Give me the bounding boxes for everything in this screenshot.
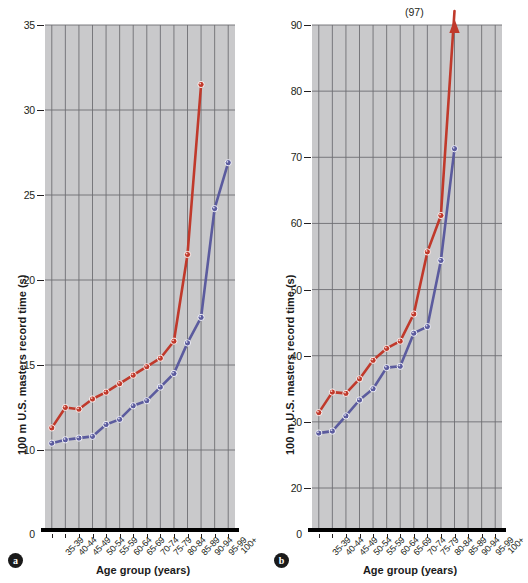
data-point-marker: [130, 372, 136, 378]
data-point-highlight: [317, 411, 319, 413]
x-tick-mark: [319, 534, 320, 538]
data-point-highlight: [77, 436, 79, 438]
data-point-marker: [397, 338, 403, 344]
panel-b-x-axis-title: Age group (years): [325, 564, 495, 576]
y-tick-label: 30: [280, 417, 302, 428]
data-point-highlight: [453, 147, 455, 149]
data-line-women: [52, 85, 201, 428]
data-point-highlight: [371, 359, 373, 361]
data-point-highlight: [412, 312, 414, 314]
x-tick-mark: [414, 534, 415, 538]
panel-a-plot-area: [45, 25, 235, 530]
data-point-marker: [370, 357, 376, 363]
data-point-highlight: [331, 429, 333, 431]
panel-b-axis-break-icon: [301, 512, 310, 526]
x-tick-mark: [65, 534, 66, 538]
data-point-marker: [144, 398, 150, 404]
data-point-highlight: [331, 390, 333, 392]
data-point-marker: [171, 338, 177, 344]
panel-a-letter: a: [8, 553, 23, 568]
x-tick-mark: [427, 534, 428, 538]
x-tick-mark: [160, 534, 161, 538]
figure: 100 m U.S. masters record time (s) 10152…: [0, 0, 528, 583]
y-tick-mark: [304, 290, 311, 291]
data-point-highlight: [131, 373, 133, 375]
x-tick-mark: [174, 534, 175, 538]
panel-b-y-axis-title: 100 m U.S. masters record time (s): [284, 275, 296, 455]
data-point-highlight: [159, 356, 161, 358]
data-point-marker: [225, 160, 231, 166]
data-point-highlight: [186, 253, 188, 255]
data-point-highlight: [64, 438, 66, 440]
data-point-highlight: [317, 431, 319, 433]
data-point-marker: [171, 370, 177, 376]
data-point-marker: [117, 381, 123, 387]
data-point-marker: [370, 386, 376, 392]
data-point-marker: [89, 433, 95, 439]
data-point-highlight: [64, 406, 66, 408]
data-point-marker: [316, 409, 322, 415]
data-point-marker: [184, 340, 190, 346]
y-tick-label: 60: [280, 218, 302, 229]
data-point-marker: [424, 249, 430, 255]
panel-b-letter: b: [274, 553, 289, 568]
y-tick-mark: [37, 110, 44, 111]
data-point-highlight: [131, 404, 133, 406]
data-point-highlight: [145, 365, 147, 367]
data-point-marker: [329, 428, 335, 434]
plotB-canvas: [312, 25, 502, 530]
x-tick-mark: [387, 534, 388, 538]
data-point-highlight: [199, 83, 201, 85]
y-tick-mark: [37, 280, 44, 281]
data-point-highlight: [426, 325, 428, 327]
y-tick-label: 35: [13, 20, 35, 31]
x-tick-mark: [52, 534, 53, 538]
data-point-marker: [356, 376, 362, 382]
data-point-highlight: [439, 214, 441, 216]
data-point-marker: [343, 413, 349, 419]
x-tick-mark: [482, 534, 483, 538]
off-chart-arrow-icon: [449, 19, 459, 33]
panel-a-x-axis-title: Age group (years): [58, 564, 228, 576]
x-tick-mark: [79, 534, 80, 538]
panel-b-zero-baseline: [308, 528, 506, 532]
data-point-highlight: [91, 435, 93, 437]
data-point-marker: [198, 81, 204, 87]
data-point-marker: [49, 425, 55, 431]
y-tick-mark: [304, 223, 311, 224]
data-point-highlight: [172, 372, 174, 374]
data-point-marker: [411, 330, 417, 336]
data-point-highlight: [118, 382, 120, 384]
data-point-marker: [384, 345, 390, 351]
x-tick-mark: [346, 534, 347, 538]
data-point-marker: [49, 440, 55, 446]
data-point-highlight: [358, 377, 360, 379]
y-tick-mark: [37, 365, 44, 366]
y-tick-label: 80: [280, 86, 302, 97]
data-point-marker: [103, 421, 109, 427]
data-point-highlight: [344, 392, 346, 394]
data-point-highlight: [104, 390, 106, 392]
x-tick-mark: [332, 534, 333, 538]
y-tick-mark: [37, 195, 44, 196]
x-tick-mark: [133, 534, 134, 538]
y-tick-mark: [304, 157, 311, 158]
data-point-highlight: [385, 366, 387, 368]
panel-b-plot-area: [312, 25, 502, 530]
y-tick-label-zero: 0: [280, 529, 302, 540]
data-point-marker: [130, 403, 136, 409]
y-tick-label: 15: [13, 360, 35, 371]
data-line-men: [52, 163, 228, 444]
data-point-highlight: [344, 414, 346, 416]
data-point-highlight: [439, 259, 441, 261]
data-point-marker: [438, 212, 444, 218]
data-point-marker: [198, 314, 204, 320]
data-point-highlight: [145, 399, 147, 401]
data-point-marker: [356, 397, 362, 403]
data-point-marker: [76, 435, 82, 441]
data-point-highlight: [412, 331, 414, 333]
y-tick-label: 20: [280, 483, 302, 494]
data-point-highlight: [398, 339, 400, 341]
data-point-marker: [103, 389, 109, 395]
y-tick-label: 50: [280, 285, 302, 296]
